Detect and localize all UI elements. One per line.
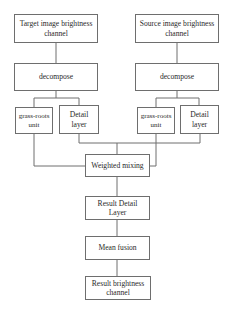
detail-layer-right-node: Detail layer xyxy=(180,105,219,134)
mean-fusion-node: Mean fusion xyxy=(85,236,150,260)
node-label: Target image brightness channel xyxy=(17,19,95,38)
detail-layer-left-node: Detail layer xyxy=(59,105,99,134)
node-label: grass-roots unit xyxy=(18,112,50,129)
node-label: Source image brightness channel xyxy=(138,19,216,38)
node-label: Result brightness channel xyxy=(88,279,148,298)
node-label: Result Detail Layer xyxy=(88,199,147,218)
decompose-right-node: decompose xyxy=(135,63,219,91)
node-label: decompose xyxy=(39,72,73,82)
weighted-mixing-node: Weighted mixing xyxy=(85,154,150,177)
node-label: grass-roots unit xyxy=(140,112,172,129)
result-detail-layer-node: Result Detail Layer xyxy=(85,196,150,220)
node-label: Weighted mixing xyxy=(91,161,143,171)
source-brightness-node: Source image brightness channel xyxy=(135,14,219,43)
base-layer-right-node: grass-roots unit xyxy=(137,107,175,134)
result-brightness-node: Result brightness channel xyxy=(85,276,151,300)
node-label: Detail layer xyxy=(62,110,96,129)
node-label: Detail layer xyxy=(183,110,216,129)
base-layer-left-node: grass-roots unit xyxy=(15,107,53,134)
node-label: decompose xyxy=(160,72,194,82)
node-label: Mean fusion xyxy=(98,243,136,253)
target-brightness-node: Target image brightness channel xyxy=(14,14,98,43)
decompose-left-node: decompose xyxy=(14,63,98,91)
